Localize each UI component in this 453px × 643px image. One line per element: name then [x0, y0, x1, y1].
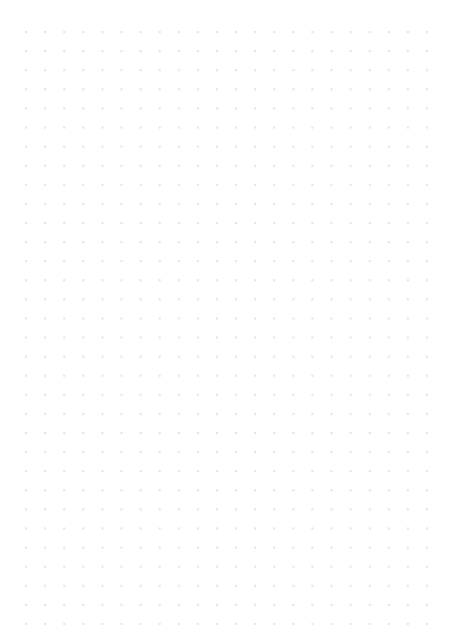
dot-grid: [0, 0, 453, 643]
paper-edge: [0, 0, 453, 643]
dot-grid-field: [25, 31, 428, 625]
dot-grid-page: [0, 0, 453, 643]
dot-pattern-layer: [25, 31, 428, 625]
